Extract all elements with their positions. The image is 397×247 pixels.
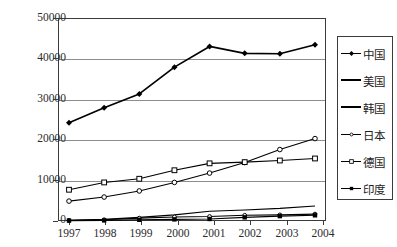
legend-label-india: 印度 [363,181,385,197]
gridline-20000 [59,140,325,141]
legend-marker-open-square-icon [341,156,361,168]
legend-item-china[interactable]: 中国 [338,40,394,67]
legend-label-japan: 日本 [363,127,385,143]
legend-marker-line-icon [341,102,361,114]
legend-label-germany: 德国 [363,154,385,170]
x-tick-mark-2003 [287,221,288,225]
legend-marker-filled-diamond-icon [341,48,361,60]
x-tick-label-1997: 1997 [49,227,89,239]
legend-item-india[interactable]: 印度 [338,175,394,202]
x-tick-mark-2002 [250,221,251,225]
y-tick-label-30000: 30000 [37,93,66,104]
line-chart: 50000 40000 30000 20000 10000 0 1997 199… [0,0,397,247]
plot-area [58,18,326,221]
legend-marker-line-icon [341,75,361,87]
x-tick-label-2003: 2003 [267,227,307,239]
x-tick-label-2001: 2001 [194,227,234,239]
gridline-10000 [59,181,325,182]
y-tick-label-50000: 50000 [37,12,66,23]
x-tick-label-2000: 2000 [158,227,198,239]
x-tick-mark-2000 [178,221,179,225]
y-tick-mark-30000 [53,99,58,100]
legend-item-usa[interactable]: 美国 [338,67,394,94]
y-tick-mark-40000 [53,58,58,59]
y-tick-label-40000: 40000 [37,52,66,63]
gridline-30000 [59,100,325,101]
y-tick-mark-50000 [53,18,58,19]
legend-item-japan[interactable]: 日本 [338,121,394,148]
legend-marker-filled-square-icon [341,183,361,195]
legend-item-germany[interactable]: 德国 [338,148,394,175]
y-tick-mark-0 [53,221,58,222]
legend-marker-small-cross-icon [341,129,361,141]
y-tick-label-20000: 20000 [37,133,66,144]
legend-item-korea[interactable]: 韩国 [338,94,394,121]
x-tick-label-2002: 2002 [230,227,270,239]
x-tick-label-1998: 1998 [85,227,125,239]
x-tick-mark-1998 [105,221,106,225]
x-tick-mark-2001 [214,221,215,225]
chart-title [0,0,340,7]
y-tick-mark-20000 [53,139,58,140]
x-tick-mark-1997 [69,221,70,225]
x-tick-mark-2004 [323,221,324,225]
x-tick-label-1999: 1999 [121,227,161,239]
legend: 中国 美国 韩国 日本 [337,36,393,200]
x-tick-mark-1999 [141,221,142,225]
legend-label-korea: 韩国 [363,100,385,116]
gridline-40000 [59,59,325,60]
legend-label-china: 中国 [363,46,385,62]
y-tick-mark-10000 [53,180,58,181]
y-tick-label-10000: 10000 [37,174,66,185]
legend-label-usa: 美国 [363,73,385,89]
y-tick-label-0: 0 [60,214,66,225]
x-tick-label-2004: 2004 [303,227,343,239]
